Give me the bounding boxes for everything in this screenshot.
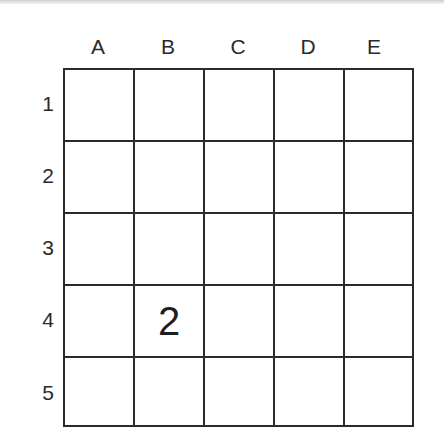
row-label-5: 5 bbox=[38, 380, 58, 406]
cell-e2[interactable] bbox=[345, 142, 412, 214]
cell-e4[interactable] bbox=[345, 286, 412, 358]
cell-a2[interactable] bbox=[65, 142, 135, 214]
column-label-e: E bbox=[339, 34, 409, 60]
cell-d2[interactable] bbox=[275, 142, 345, 214]
cell-d3[interactable] bbox=[275, 214, 345, 286]
cell-b4[interactable]: 2 bbox=[135, 286, 205, 358]
cell-a1[interactable] bbox=[65, 70, 135, 142]
cell-b2[interactable] bbox=[135, 142, 205, 214]
puzzle-grid: 2 bbox=[63, 68, 414, 427]
cell-c2[interactable] bbox=[205, 142, 275, 214]
top-edge-shadow bbox=[0, 0, 444, 4]
column-label-a: A bbox=[63, 34, 133, 60]
cell-c4[interactable] bbox=[205, 286, 275, 358]
cell-b5[interactable] bbox=[135, 358, 205, 425]
column-label-c: C bbox=[203, 34, 273, 60]
column-label-b: B bbox=[133, 34, 203, 60]
cell-c3[interactable] bbox=[205, 214, 275, 286]
cell-d1[interactable] bbox=[275, 70, 345, 142]
cell-b1[interactable] bbox=[135, 70, 205, 142]
row-label-4: 4 bbox=[38, 307, 58, 333]
cell-c1[interactable] bbox=[205, 70, 275, 142]
row-label-2: 2 bbox=[38, 163, 58, 189]
row-label-1: 1 bbox=[38, 91, 58, 117]
cell-a4[interactable] bbox=[65, 286, 135, 358]
cell-d4[interactable] bbox=[275, 286, 345, 358]
cell-a5[interactable] bbox=[65, 358, 135, 425]
cell-c5[interactable] bbox=[205, 358, 275, 425]
cell-e1[interactable] bbox=[345, 70, 412, 142]
cell-b3[interactable] bbox=[135, 214, 205, 286]
cell-a3[interactable] bbox=[65, 214, 135, 286]
cell-d5[interactable] bbox=[275, 358, 345, 425]
cell-e5[interactable] bbox=[345, 358, 412, 425]
column-label-d: D bbox=[273, 34, 343, 60]
cell-e3[interactable] bbox=[345, 214, 412, 286]
row-label-3: 3 bbox=[38, 235, 58, 261]
